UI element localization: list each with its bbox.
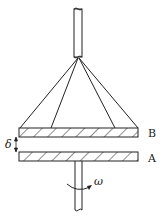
gap-label: δ bbox=[5, 138, 12, 151]
suspension-strings bbox=[20, 58, 138, 128]
angular-velocity-label: ω bbox=[94, 175, 103, 188]
plate-b bbox=[19, 128, 138, 137]
gap-dimension-arrow bbox=[15, 137, 18, 152]
viscometer-diagram: δ B A ω bbox=[0, 0, 165, 216]
drive-shaft bbox=[75, 161, 82, 211]
plate-b-label: B bbox=[148, 127, 156, 140]
plate-a bbox=[19, 152, 138, 161]
suspension-rod bbox=[74, 8, 82, 58]
plate-a-label: A bbox=[147, 152, 157, 165]
rotation-arrow-icon bbox=[67, 184, 92, 190]
